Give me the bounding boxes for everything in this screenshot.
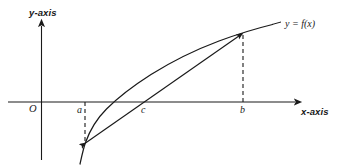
x-axis-label-variable: x-axis (301, 106, 329, 117)
function-label-leader (272, 22, 281, 25)
x-axis-label: x-axis (301, 107, 329, 117)
point-a-label: a (77, 105, 82, 115)
y-axis-label: y-axis (29, 8, 57, 18)
figure-canvas: y-axis x-axis O a c b y = f(x) (0, 0, 337, 167)
secant-chord (86, 34, 243, 144)
point-b-label: b (240, 105, 245, 115)
y-axis-label-variable: y-axis (29, 7, 57, 18)
point-c-label: c (141, 105, 145, 115)
function-label: y = f(x) (285, 19, 315, 29)
function-curve (80, 25, 273, 165)
origin-label: O (29, 104, 37, 115)
